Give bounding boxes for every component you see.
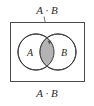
figure-caption-label: A · B — [35, 87, 58, 99]
intersection-callout-label: A · B — [35, 4, 58, 16]
set-a-label: A — [26, 47, 34, 58]
venn-diagram-figure: A · B A B A · B — [0, 0, 94, 106]
set-b-label: B — [61, 47, 67, 58]
venn-diagram-canvas: A · B A B A · B — [0, 0, 94, 106]
